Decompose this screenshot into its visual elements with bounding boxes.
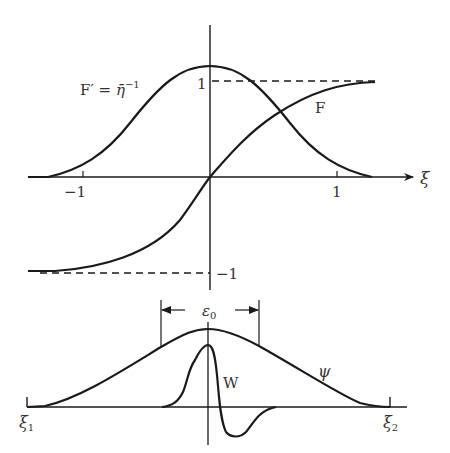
psi-label: ψ xyxy=(318,362,331,381)
diagram-canvas: −1 1 1 −1 ξ F′ = η̄−1 F ε0 ψ W xyxy=(0,0,450,453)
top-plot: −1 1 1 −1 ξ F′ = η̄−1 F xyxy=(28,25,431,290)
f-prime-label-eta: η̄ xyxy=(116,81,125,99)
f-prime-label-exp: −1 xyxy=(125,79,140,90)
tick-label-y-pos1: 1 xyxy=(197,75,207,93)
tick-label-x-pos1: 1 xyxy=(332,183,342,201)
f-label: F xyxy=(315,99,325,117)
xi2-sub: 2 xyxy=(392,422,398,433)
w-curve xyxy=(162,345,276,437)
epsilon-main: ε xyxy=(202,302,210,320)
x-axis-label-xi: ξ xyxy=(420,168,431,188)
xi1-label: ξ1 xyxy=(19,413,34,433)
w-label: W xyxy=(223,374,239,392)
tick-label-y-neg1: −1 xyxy=(216,265,238,283)
xi1-sub: 1 xyxy=(28,422,34,433)
bottom-plot: ε0 ψ W ξ1 ξ2 xyxy=(19,300,407,445)
tick-label-x-neg1: −1 xyxy=(64,183,86,201)
xi2-label: ξ2 xyxy=(383,413,398,433)
f-prime-label: F′ = η̄−1 xyxy=(80,79,140,99)
epsilon-sub: 0 xyxy=(210,310,216,321)
epsilon-0-label: ε0 xyxy=(202,302,216,321)
f-prime-label-main: F′ = xyxy=(80,81,116,99)
